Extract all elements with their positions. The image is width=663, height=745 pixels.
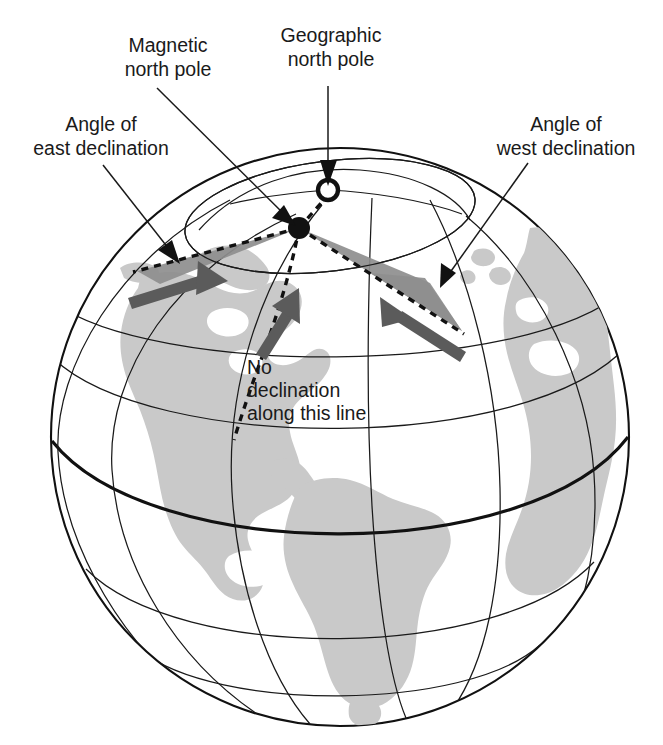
south-america-shape [283,478,450,708]
meridian-pole-converge-left [230,190,328,204]
leader-lines [103,86,528,288]
iceland-shape [471,249,495,267]
leader-east-declination [103,165,176,258]
east-declination-line1: Angle of [65,113,137,135]
west-declination-line2: west declination [496,137,636,159]
east-declination-line2: east declination [33,137,169,159]
no-declination-line1: No [247,356,272,378]
west-declination-line1: Angle of [530,113,602,135]
geographic-pole-line1: Geographic [281,24,382,46]
british-isles-shape [489,267,511,285]
leader-magnetic-pole [157,88,292,222]
label-east-declination: Angle of east declination [33,113,169,159]
leader-east-declination-arrowhead [158,240,180,264]
globe [51,144,629,727]
label-west-declination: Angle of west declination [496,113,636,159]
eurasia-africa-shape [503,227,616,595]
geographic-pole-line2: north pole [288,48,375,70]
magnetic-pole-line2: north pole [125,58,212,80]
figure-canvas: Magnetic north pole Geographic north pol… [0,0,663,745]
magnetic-pole-line1: Magnetic [128,34,207,56]
label-geographic-north-pole: Geographic north pole [281,24,382,70]
no-declination-line3: along this line [247,402,366,424]
no-declination-line2: declination [247,379,340,401]
globe-diagram: Magnetic north pole Geographic north pol… [0,0,663,745]
landmasses [120,227,616,727]
label-magnetic-north-pole: Magnetic north pole [125,34,212,80]
